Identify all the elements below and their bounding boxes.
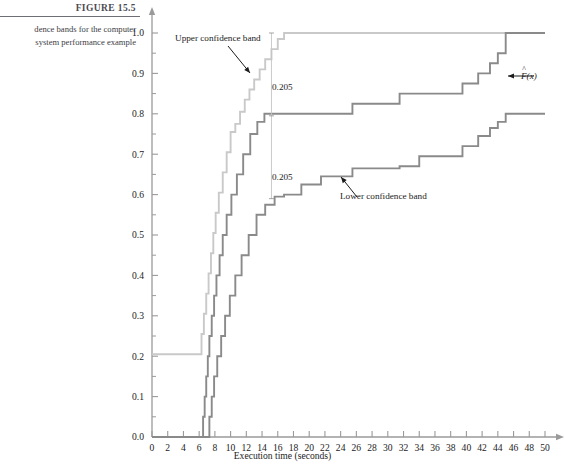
series-lower-confidence-band (152, 114, 545, 437)
arrow-fhat-head (508, 74, 514, 79)
annotation-fhat: F(x) (521, 71, 537, 81)
y-tick-label: 0.3 (132, 310, 144, 321)
x-axis-title: Execution time (seconds) (0, 450, 565, 461)
fhat-label: F(x) (521, 71, 537, 81)
y-tick-label: 0.4 (132, 270, 144, 281)
y-axis-arrow (149, 7, 155, 15)
annotation-lower-band: Lower confidence band (340, 191, 427, 201)
annotation-gap-bottom: 0.205 (272, 172, 293, 182)
y-tick-label: 0.8 (132, 108, 144, 119)
y-tick-label: 0.7 (132, 149, 144, 160)
series-f-x (152, 33, 545, 437)
x-axis-arrow (556, 434, 564, 440)
figure-number: FIGURE 15.5 (0, 0, 140, 13)
y-tick-label: 0.2 (132, 351, 144, 362)
y-tick-label: 0.5 (132, 229, 144, 240)
ecdf-plot: 0.00.10.20.30.40.50.60.70.80.91.00246810… (0, 0, 565, 473)
y-tick-label: 0.9 (132, 68, 144, 79)
y-tick-label: 0.1 (132, 391, 144, 402)
figure-caption: FIGURE 15.5 dence bands for the computer… (0, 0, 140, 49)
y-tick-label: 0.6 (132, 189, 144, 200)
caption-line-2: system performance example (0, 36, 136, 49)
annotation-upper-band: Upper confidence band (175, 33, 261, 43)
annotation-gap-top: 0.205 (272, 82, 293, 92)
caption-line-1: dence bands for the computer (0, 23, 136, 36)
y-tick-label: 0.0 (132, 431, 144, 442)
caption-text: dence bands for the computer system perf… (0, 17, 140, 49)
figure-container: FIGURE 15.5 dence bands for the computer… (0, 0, 565, 473)
